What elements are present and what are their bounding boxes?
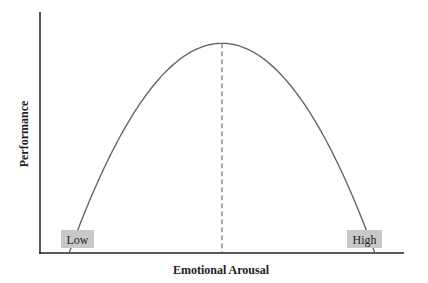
low-label: Low xyxy=(67,233,89,247)
arousal-performance-diagram: Low High Emotional Arousal Performance xyxy=(0,0,428,283)
high-label: High xyxy=(353,233,377,247)
y-axis-title: Performance xyxy=(17,100,31,167)
x-axis-title: Emotional Arousal xyxy=(173,263,270,277)
